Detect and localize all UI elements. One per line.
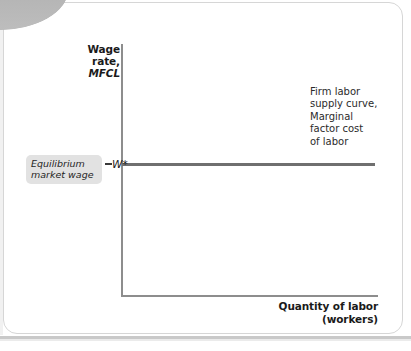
y-axis-title-line2: rate, [86, 55, 120, 67]
equilibrium-label-line1: Equilibrium [31, 158, 97, 169]
curve-label-line5: of labor [310, 136, 402, 148]
curve-label-line4: factor cost [310, 123, 402, 135]
equilibrium-leader-dash [105, 163, 112, 165]
y-axis-title-line3: MFCL [86, 67, 120, 79]
curve-label-line1: Firm labor [310, 86, 402, 98]
figure-container: Wage rate, MFCL Quantity of labor (worke… [0, 0, 411, 351]
x-axis-title: Quantity of labor (workers) [228, 300, 378, 326]
page-bottom-rule-shadow [0, 339, 411, 341]
x-axis-title-line2: (workers) [228, 313, 378, 326]
equilibrium-wage-callout: Equilibrium market wage [26, 155, 102, 184]
x-axis-title-line1: Quantity of labor [228, 300, 378, 313]
curve-annotation-label: Firm labor supply curve, Marginal factor… [310, 86, 402, 148]
wage-axis-marker: W* [112, 158, 128, 170]
curve-label-line2: supply curve, [310, 98, 402, 110]
y-axis-line [121, 44, 123, 297]
y-axis-title: Wage rate, MFCL [86, 43, 120, 79]
y-axis-title-line1: Wage [86, 43, 120, 55]
labor-supply-curve [122, 163, 375, 166]
equilibrium-label-line2: market wage [31, 169, 97, 180]
curve-label-line3: Marginal [310, 111, 402, 123]
x-axis-line [121, 295, 378, 297]
